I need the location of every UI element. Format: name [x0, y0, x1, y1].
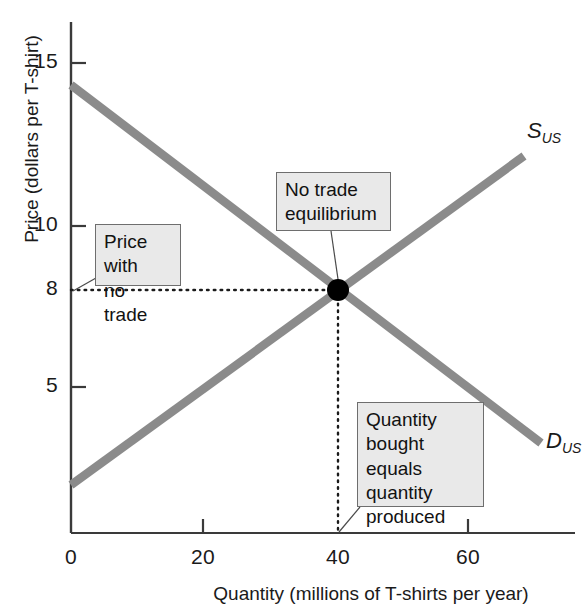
supply-curve-label-sub: US [542, 130, 561, 146]
chart-canvas [0, 0, 586, 611]
y-tick-label-5: 5 [14, 373, 58, 397]
callout-quantity-bought-equals-quantity-produced: Quantity bought equals quantity produced [357, 402, 484, 507]
x-tick-label-20: 20 [173, 545, 233, 569]
demand-curve-label-main: D [546, 428, 562, 453]
leader-line-no-trade-equilibrium [331, 231, 339, 286]
x-tick-label-60: 60 [438, 545, 498, 569]
economics-supply-demand-figure: 15 10 8 5 0 20 40 60 Price (dollars per … [0, 0, 586, 611]
x-tick-label-0: 0 [41, 545, 101, 569]
x-tick-label-40: 40 [308, 545, 368, 569]
callout-no-trade-equilibrium: No trade equilibrium [276, 172, 391, 231]
y-axis-title: Price (dollars per T-shirt) [21, 19, 43, 259]
supply-curve-label-main: S [527, 118, 542, 143]
equilibrium-point-marker [327, 279, 349, 301]
callout-price-with-no-trade: Price with no trade [95, 224, 181, 286]
supply-curve-label: SUS [527, 118, 561, 146]
y-tick-label-8: 8 [14, 276, 58, 300]
leader-line-quantity-bought [339, 507, 360, 532]
demand-curve-label-sub: US [562, 440, 581, 456]
demand-curve-label: DUS [546, 428, 581, 456]
x-axis-title: Quantity (millions of T-shirts per year) [156, 583, 586, 605]
